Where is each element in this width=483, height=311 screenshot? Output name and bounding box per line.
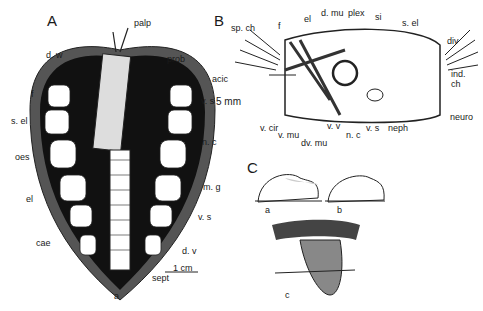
scale-bar-5mm: 5 mm <box>216 97 241 106</box>
panel-label-c: C <box>247 160 258 175</box>
label-v-mu: v. mu <box>278 131 299 140</box>
label-prob: prob <box>167 55 185 64</box>
label-dv-mu: dv. mu <box>301 139 327 148</box>
label-v-s-upper: v. s <box>201 97 214 106</box>
panel-b-cross-section-drawing <box>235 29 478 122</box>
scale-bar-1cm: 1 cm <box>173 264 193 273</box>
label-a-anus: a <box>114 292 119 301</box>
label-sept: sept <box>152 274 169 283</box>
label-cae: cae <box>36 239 51 248</box>
label-c-a: a <box>265 206 270 215</box>
label-v-s-b: v. s <box>366 124 379 133</box>
label-oes: oes <box>15 153 30 162</box>
label-el: el <box>26 195 33 204</box>
label-sp-ch: sp. ch <box>231 24 255 33</box>
label-ind-ch: ind. ch <box>451 69 466 89</box>
panel-label-b: B <box>214 13 224 28</box>
label-m-g: m. g <box>203 183 221 192</box>
label-v-cir: v. cir <box>260 124 278 133</box>
label-el-b: el <box>304 15 311 24</box>
label-si: si <box>375 13 382 22</box>
label-n-c: n. c <box>202 138 217 147</box>
label-acic: acic <box>212 75 228 84</box>
label-c-c: c <box>285 291 290 300</box>
label-f-b: f <box>278 22 281 31</box>
label-neph: neph <box>388 124 408 133</box>
label-plex: plex <box>348 9 365 18</box>
label-palp: palp <box>134 19 151 28</box>
label-dorsal-wall: d. w <box>46 51 63 60</box>
label-d-mu: d. mu <box>321 9 344 18</box>
figure-drawing <box>0 0 483 311</box>
label-s-el: s. el <box>11 117 28 126</box>
label-s-el-b: s. el <box>402 19 419 28</box>
label-d-v: d. v <box>182 247 197 256</box>
panel-label-a: A <box>47 13 57 28</box>
label-v-s-lower: v. s <box>198 213 211 222</box>
label-neuro: neuro <box>450 113 473 122</box>
panel-c-drawings <box>255 175 385 295</box>
label-v-v: v. v <box>327 122 340 131</box>
label-n-c-b: n. c <box>346 131 361 140</box>
label-div: div <box>447 37 459 46</box>
label-f: f <box>31 90 34 99</box>
panel-a-body-drawing <box>30 28 215 300</box>
label-c-b: b <box>337 206 342 215</box>
